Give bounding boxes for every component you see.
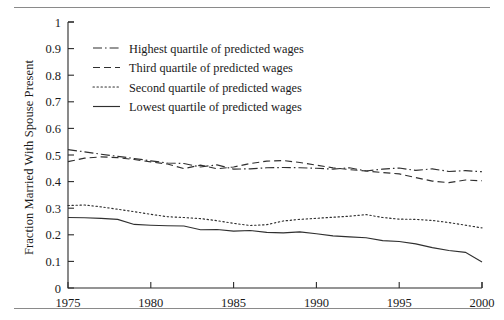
legend-label-3: Lowest quartile of predicted wages — [129, 100, 302, 114]
x-tick-label: 1980 — [138, 296, 163, 310]
legend-label-1: Third quartile of predicted wages — [129, 61, 293, 75]
x-tick-label: 2000 — [470, 296, 495, 310]
x-tick-label: 1985 — [221, 296, 246, 310]
y-tick-label: 0.2 — [45, 228, 61, 242]
chart-svg: 10.90.80.70.60.50.40.30.20.10 1975198019… — [0, 0, 504, 320]
legend-label-2: Second quartile of predicted wages — [129, 81, 302, 95]
y-tick-label: 0.8 — [45, 69, 61, 83]
x-tick-group: 197519801985199019952000 — [56, 282, 495, 310]
y-tick-label: 0.5 — [45, 149, 61, 163]
x-tick-label: 1975 — [56, 296, 81, 310]
y-tick-label: 0.4 — [45, 175, 61, 189]
x-tick-label: 1990 — [304, 296, 329, 310]
y-tick-label: 1 — [55, 16, 61, 30]
y-tick-label: 0.7 — [45, 95, 61, 109]
x-tick-label: 1995 — [387, 296, 412, 310]
line-chart-figure: Fraction Married With Spouse Present 10.… — [0, 0, 504, 320]
y-tick-label: 0.1 — [45, 255, 61, 269]
series-line-2 — [68, 205, 482, 228]
series-line-3 — [68, 218, 482, 262]
y-tick-label: 0.6 — [45, 122, 61, 136]
series-group — [68, 150, 482, 262]
legend-group: Highest quartile of predicted wagesThird… — [93, 42, 304, 115]
y-tick-label: 0.9 — [45, 42, 61, 56]
y-tick-label: 0.3 — [45, 202, 61, 216]
y-tick-group: 10.90.80.70.60.50.40.30.20.10 — [45, 16, 74, 296]
legend-label-0: Highest quartile of predicted wages — [129, 42, 304, 56]
y-tick-label: 0 — [55, 282, 61, 296]
